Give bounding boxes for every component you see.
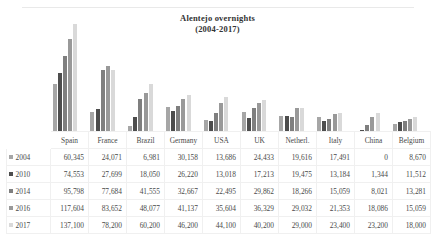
table-cell: 32,667: [165, 183, 203, 200]
table-row: 2017137,10078,20060,20046,20044,10040,20…: [7, 217, 431, 234]
top-divider: [22, 7, 414, 8]
table-cell: 35,604: [203, 200, 241, 217]
table-cell: 29,000: [279, 217, 317, 234]
legend-entry-2010[interactable]: 2010: [7, 166, 51, 183]
chart-figure: Alentejo overnights (2004-2017) SpainFra…: [0, 0, 435, 239]
table-cell: 137,100: [51, 217, 89, 234]
table-cell: 18,050: [127, 166, 165, 183]
bar: [171, 111, 175, 131]
column-header-usa: USA: [203, 132, 241, 149]
bar: [214, 113, 218, 131]
bar: [219, 103, 223, 131]
table-cell: 27,699: [89, 166, 127, 183]
table-cell: 18,266: [279, 183, 317, 200]
bar: [149, 84, 153, 131]
table-cell: 29,862: [241, 183, 279, 200]
table-cell: 19,475: [279, 166, 317, 183]
bar: [370, 117, 374, 131]
bar: [322, 121, 326, 131]
bar: [101, 70, 105, 131]
legend-swatch-icon: [9, 172, 13, 176]
legend-label: 2014: [16, 187, 31, 196]
bar: [58, 73, 62, 131]
bar-group-germany: [159, 24, 197, 131]
table-cell: 23,400: [317, 217, 355, 234]
bar: [204, 120, 208, 131]
table-cell: 15,059: [393, 200, 431, 217]
bar: [300, 108, 304, 131]
table-cell: 77,684: [89, 183, 127, 200]
data-table: SpainFranceBrazilGermanyUSAUKNetherl.Ita…: [6, 131, 431, 234]
column-header-brazil: Brazil: [127, 132, 165, 149]
column-header-belgium: Belgium: [393, 132, 431, 149]
table-cell: 21,353: [317, 200, 355, 217]
legend-label: 2004: [16, 153, 31, 162]
bar: [295, 108, 299, 131]
table-cell: 17,213: [241, 166, 279, 183]
bar-group-belgium: [386, 24, 424, 131]
table-cell: 60,345: [51, 149, 89, 166]
table-cell: 29,032: [279, 200, 317, 217]
bar-group-italy: [311, 24, 349, 131]
bar: [176, 106, 180, 131]
bar: [252, 108, 256, 131]
bar: [317, 117, 321, 131]
table-cell: 60,200: [127, 217, 165, 234]
bar-group-netherl: [273, 24, 311, 131]
legend-label: 2010: [16, 170, 31, 179]
bar: [63, 56, 67, 131]
table-cell: 46,200: [165, 217, 203, 234]
bar: [96, 109, 100, 131]
column-header-netherl: Netherl.: [279, 132, 317, 149]
table-cell: 11,512: [393, 166, 431, 183]
bar: [338, 113, 342, 131]
table-corner-cell: [7, 132, 51, 149]
legend-entry-2017[interactable]: 2017: [7, 217, 51, 234]
table-cell: 0: [355, 149, 393, 166]
plot-area: [46, 24, 424, 131]
bar: [398, 122, 402, 131]
bar: [68, 39, 72, 131]
bar: [90, 112, 94, 131]
bar: [53, 84, 57, 131]
table-cell: 13,686: [203, 149, 241, 166]
data-table-wrap: SpainFranceBrazilGermanyUSAUKNetherl.Ita…: [6, 131, 430, 235]
legend-entry-2004[interactable]: 2004: [7, 149, 51, 166]
bar: [224, 97, 228, 131]
bar: [166, 107, 170, 131]
bar: [181, 99, 185, 131]
table-cell: 8,670: [393, 149, 431, 166]
bar-group-usa: [197, 24, 235, 131]
bar: [403, 121, 407, 131]
bar: [408, 119, 412, 131]
bar: [262, 100, 266, 131]
table-cell: 18,000: [393, 217, 431, 234]
bar: [327, 119, 331, 131]
bar-group-uk: [235, 24, 273, 131]
column-header-france: France: [89, 132, 127, 149]
bar: [285, 116, 289, 131]
legend-swatch-icon: [9, 223, 13, 227]
bar: [106, 66, 110, 131]
table-row: 201074,55327,69918,05026,22013,01817,213…: [7, 166, 431, 183]
table-cell: 8,021: [355, 183, 393, 200]
legend-entry-2016[interactable]: 2016: [7, 200, 51, 217]
table-cell: 13,184: [317, 166, 355, 183]
bar: [73, 24, 77, 131]
bar-group-brazil: [122, 24, 160, 131]
bar: [413, 117, 417, 131]
legend-entry-2014[interactable]: 2014: [7, 183, 51, 200]
bar: [187, 95, 191, 131]
bar: [209, 121, 213, 131]
bar-group-france: [84, 24, 122, 131]
table-cell: 44,100: [203, 217, 241, 234]
table-cell: 24,071: [89, 149, 127, 166]
legend-swatch-icon: [9, 155, 13, 159]
bar: [290, 117, 294, 131]
table-cell: 41,137: [165, 200, 203, 217]
bar: [144, 93, 148, 131]
table-cell: 18,086: [355, 200, 393, 217]
bar: [247, 118, 251, 131]
table-cell: 78,200: [89, 217, 127, 234]
legend-swatch-icon: [9, 189, 13, 193]
